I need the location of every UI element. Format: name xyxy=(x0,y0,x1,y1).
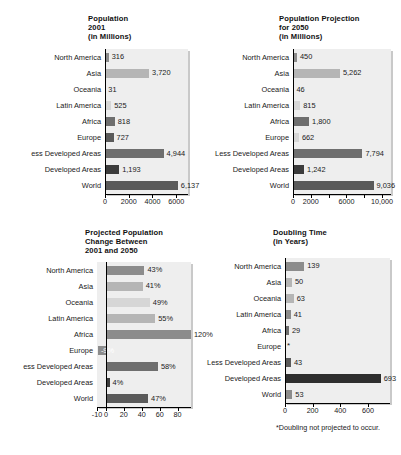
category-label: ess Developed Areas xyxy=(23,362,93,371)
chart-title: Population 2001 (in Millions) xyxy=(88,14,131,42)
x-axis xyxy=(285,403,390,404)
bar-row: Europe-9% xyxy=(97,343,191,359)
bar xyxy=(105,69,149,78)
value-label: -9% xyxy=(101,346,114,355)
x-axis-tick-label: 20 xyxy=(120,410,128,419)
value-label: 43% xyxy=(147,265,162,274)
bar-row: ess Developed Areas4,944 xyxy=(105,146,188,162)
value-label: 693 xyxy=(384,374,396,383)
bar xyxy=(105,165,119,174)
x-axis-tick xyxy=(364,195,365,198)
chart-title: Projected Population Change Between 2001… xyxy=(85,228,163,256)
x-axis-tick-label: 4000 xyxy=(144,197,160,206)
category-label: Developed Areas xyxy=(37,378,93,387)
value-label: 727 xyxy=(117,133,129,142)
chart-title: Doubling Time (in Years) xyxy=(273,228,327,246)
value-label: 4,944 xyxy=(167,149,186,158)
x-axis-tick-label: 200 xyxy=(307,406,319,415)
value-label: 525 xyxy=(114,101,126,110)
value-label: 43 xyxy=(294,358,302,367)
bar-row: Africa29 xyxy=(285,322,390,338)
x-axis-tick-label: 0 xyxy=(283,406,287,415)
category-label: Asia xyxy=(79,282,93,291)
bar-row: World53 xyxy=(285,387,390,403)
category-label: Africa xyxy=(262,326,281,335)
value-label: 4% xyxy=(113,378,124,387)
bar-row: North America43% xyxy=(97,262,191,278)
x-axis-tick-label: 6000 xyxy=(338,197,354,206)
figure-container: Population 2001 (in Millions) North Amer… xyxy=(0,0,401,455)
bar-row: Less Developed Areas7,794 xyxy=(293,146,391,162)
value-label: 47% xyxy=(151,394,166,403)
bar-row: Developed Areas693 xyxy=(285,371,390,387)
bar-rows: North America316Asia3,720Oceania31Latin … xyxy=(105,49,188,194)
category-label: Latin America xyxy=(56,101,101,110)
category-label: Asia xyxy=(87,69,101,78)
category-label: Latin America xyxy=(236,310,281,319)
bar-rows: North America450Asia5,262Oceania46Latin … xyxy=(293,49,391,194)
value-label: 63 xyxy=(297,294,305,303)
bar-row: North America450 xyxy=(293,49,391,65)
value-label: 1,242 xyxy=(307,165,326,174)
x-axis-tick xyxy=(329,195,330,198)
category-label: Europe xyxy=(77,133,101,142)
category-label: Oceania xyxy=(65,298,93,307)
value-label: 49% xyxy=(153,298,168,307)
x-axis-tick-label: 2000 xyxy=(121,197,137,206)
bar-row: Latin America55% xyxy=(97,310,191,326)
bar xyxy=(105,149,164,158)
bar-row: World47% xyxy=(97,391,191,407)
x-axis-tick-label: 40 xyxy=(138,410,146,419)
bar-row: World9,036 xyxy=(293,178,391,194)
bar xyxy=(293,69,340,78)
zero-baseline xyxy=(293,49,294,194)
category-label: Latin America xyxy=(244,101,289,110)
value-label: 139 xyxy=(307,261,319,270)
plot-area: North America139Asia50Oceania63Latin Ame… xyxy=(285,258,390,403)
value-label: 6,137 xyxy=(181,181,200,190)
bar-row: North America139 xyxy=(285,258,390,274)
bar xyxy=(293,117,309,126)
chart-footnote: *Doubling not projected to occur. xyxy=(276,423,380,432)
x-axis-tick-label: -10 xyxy=(92,410,102,419)
value-label: 450 xyxy=(300,52,312,61)
chart-panel-population-projection-2050: Population Projection for 2050 (in Milli… xyxy=(200,8,401,220)
bar xyxy=(293,149,362,158)
value-label: 53 xyxy=(295,390,303,399)
value-label: 3,720 xyxy=(152,68,171,77)
value-label: 41 xyxy=(294,310,302,319)
value-label: 50 xyxy=(295,277,303,286)
category-label: North America xyxy=(54,53,101,62)
category-label: Europe xyxy=(265,133,289,142)
bar-row: Asia50 xyxy=(285,274,390,290)
no-data-asterisk: * xyxy=(287,342,290,350)
x-axis-tick-label: 400 xyxy=(334,406,346,415)
category-label: Oceania xyxy=(253,294,281,303)
chart-title: Population Projection for 2050 (in Milli… xyxy=(279,14,360,42)
bar-row: Asia5,262 xyxy=(293,65,391,81)
category-label: World xyxy=(270,181,289,190)
value-label: 46 xyxy=(296,85,304,94)
bar-row: Africa120% xyxy=(97,326,191,342)
zero-baseline xyxy=(105,49,106,194)
value-label: 316 xyxy=(112,52,124,61)
bar xyxy=(106,362,158,371)
category-label: Asia xyxy=(275,69,289,78)
x-axis-tick-label: 2000 xyxy=(303,197,319,206)
bar-row: Developed Areas1,242 xyxy=(293,162,391,178)
category-label: Asia xyxy=(267,278,281,287)
category-label: Developed Areas xyxy=(225,374,281,383)
x-axis-tick-label: 80 xyxy=(174,410,182,419)
category-label: Less Developed Areas xyxy=(207,358,281,367)
value-label: 58% xyxy=(161,362,176,371)
zero-baseline xyxy=(285,258,286,403)
x-axis xyxy=(293,194,391,195)
bar-row: Developed Areas4% xyxy=(97,375,191,391)
bar-row: World6,137 xyxy=(105,178,188,194)
bar-row: ess Developed Areas58% xyxy=(97,359,191,375)
bar-row: North America316 xyxy=(105,49,188,65)
value-label: 9,036 xyxy=(377,181,396,190)
x-axis-tick-label: 0 xyxy=(104,410,108,419)
x-axis-tick-label: 6000 xyxy=(168,197,184,206)
value-label: 815 xyxy=(303,101,315,110)
